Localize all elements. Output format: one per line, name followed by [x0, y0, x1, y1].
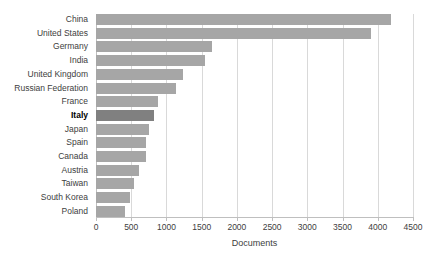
category-label-poland: Poland [0, 206, 92, 217]
bar-row [96, 124, 413, 135]
tick-mark-4000 [378, 217, 379, 221]
category-axis-labels: ChinaUnited StatesGermanyIndiaUnited Kin… [0, 14, 92, 217]
category-label-china: China [0, 14, 92, 25]
bar-united-states[interactable] [96, 28, 371, 39]
tick-mark-0 [96, 217, 97, 221]
bar-russian-federation[interactable] [96, 83, 176, 94]
bar-italy[interactable] [96, 110, 154, 121]
bar-spain[interactable] [96, 137, 146, 148]
bar-row [96, 28, 413, 39]
bar-united-kingdom[interactable] [96, 69, 183, 80]
category-label-india: India [0, 55, 92, 66]
plot-area [96, 14, 413, 217]
bar-row [96, 165, 413, 176]
tick-mark-4500 [413, 217, 414, 221]
tick-label-3000: 3000 [298, 222, 317, 232]
tick-mark-3000 [307, 217, 308, 221]
bar-row [96, 55, 413, 66]
tick-mark-2000 [237, 217, 238, 221]
bar-row [96, 151, 413, 162]
category-label-germany: Germany [0, 41, 92, 52]
tick-mark-1500 [202, 217, 203, 221]
bar-south-korea[interactable] [96, 192, 130, 203]
bar-row [96, 83, 413, 94]
tick-label-4500: 4500 [404, 222, 423, 232]
tick-label-2500: 2500 [263, 222, 282, 232]
tick-label-1000: 1000 [157, 222, 176, 232]
gridline-4500 [413, 14, 414, 217]
bar-poland[interactable] [96, 206, 125, 217]
bar-japan[interactable] [96, 124, 149, 135]
bar-france[interactable] [96, 96, 158, 107]
bar-row [96, 110, 413, 121]
tick-label-0: 0 [94, 222, 99, 232]
x-axis-ticks [96, 217, 413, 221]
bar-chart: ChinaUnited StatesGermanyIndiaUnited Kin… [0, 0, 438, 263]
bar-austria[interactable] [96, 165, 139, 176]
tick-label-4000: 4000 [368, 222, 387, 232]
tick-label-2000: 2000 [227, 222, 246, 232]
tick-mark-2500 [272, 217, 273, 221]
category-label-japan: Japan [0, 124, 92, 135]
category-label-canada: Canada [0, 151, 92, 162]
x-axis-tick-labels: 050010001500200025003000350040004500 [96, 222, 413, 236]
bar-canada[interactable] [96, 151, 146, 162]
bar-china[interactable] [96, 14, 391, 25]
tick-label-500: 500 [124, 222, 138, 232]
category-label-taiwan: Taiwan [0, 178, 92, 189]
category-label-spain: Spain [0, 137, 92, 148]
bar-row [96, 178, 413, 189]
x-axis-title: Documents [96, 238, 413, 248]
category-label-austria: Austria [0, 165, 92, 176]
tick-mark-500 [131, 217, 132, 221]
category-label-united-states: United States [0, 28, 92, 39]
bar-row [96, 206, 413, 217]
tick-mark-1000 [166, 217, 167, 221]
bar-rows [96, 14, 413, 217]
category-label-russian-federation: Russian Federation [0, 83, 92, 94]
bar-germany[interactable] [96, 41, 212, 52]
bar-row [96, 96, 413, 107]
bar-row [96, 41, 413, 52]
bar-row [96, 192, 413, 203]
tick-label-1500: 1500 [192, 222, 211, 232]
category-label-united-kingdom: United Kingdom [0, 69, 92, 80]
tick-mark-3500 [343, 217, 344, 221]
bar-row [96, 14, 413, 25]
tick-label-3500: 3500 [333, 222, 352, 232]
category-label-south-korea: South Korea [0, 192, 92, 203]
bar-row [96, 137, 413, 148]
category-label-france: France [0, 96, 92, 107]
category-label-italy: Italy [0, 110, 92, 121]
bar-taiwan[interactable] [96, 178, 134, 189]
bar-row [96, 69, 413, 80]
bar-india[interactable] [96, 55, 205, 66]
